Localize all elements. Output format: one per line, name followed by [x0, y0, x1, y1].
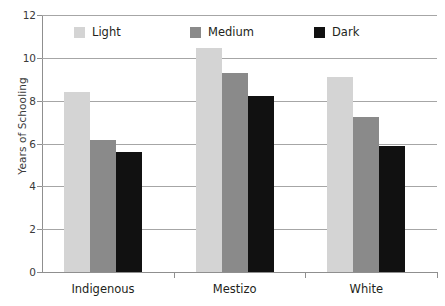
plot-area — [42, 15, 437, 272]
x-tick-label-white: White — [350, 282, 383, 296]
bar-white-dark — [379, 146, 405, 272]
legend-item-light[interactable]: Light — [74, 22, 121, 42]
legend-label: Light — [92, 25, 121, 39]
legend-label: Medium — [208, 25, 254, 39]
legend-item-dark[interactable]: Dark — [314, 22, 359, 42]
gridline-10 — [42, 58, 437, 59]
y-axis-tick-marks — [0, 15, 42, 272]
legend-swatch-icon-dark — [314, 27, 325, 38]
legend-label: Dark — [332, 25, 359, 39]
legend-swatch-icon-light — [74, 27, 85, 38]
legend-item-medium[interactable]: Medium — [190, 22, 254, 42]
legend-swatch-icon-medium — [190, 27, 201, 38]
bar-mestizo-medium — [222, 73, 248, 272]
chart-legend: LightMediumDark — [42, 22, 437, 44]
x-tick-mark-3 — [437, 272, 438, 278]
x-tick-label-mestizo: Mestizo — [213, 282, 257, 296]
bar-white-medium — [353, 117, 379, 272]
bar-indigenous-dark — [116, 152, 142, 272]
gridline-12 — [42, 15, 437, 16]
x-tick-label-indigenous: Indigenous — [71, 282, 134, 296]
x-tick-mark-1 — [174, 272, 175, 278]
bar-indigenous-medium — [90, 140, 116, 272]
x-tick-mark-2 — [305, 272, 306, 278]
bar-mestizo-light — [196, 48, 222, 272]
bar-mestizo-dark — [248, 96, 274, 272]
bar-chart: Years of Schooling 121086420 LightMedium… — [0, 0, 445, 306]
x-axis-line — [42, 272, 438, 273]
bar-white-light — [327, 77, 353, 272]
bar-indigenous-light — [64, 92, 90, 272]
